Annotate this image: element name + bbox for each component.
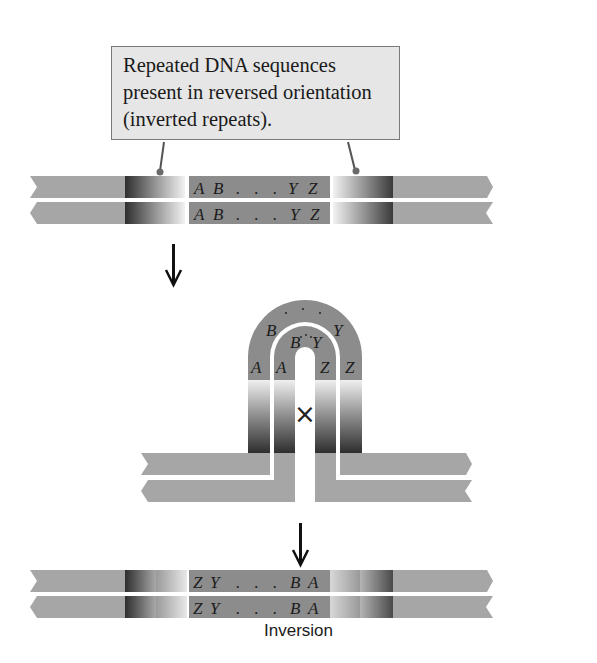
seq-after-top-B: B [290, 573, 301, 592]
hairpin-outer-Y: Y [333, 321, 344, 340]
seq-before-bottom-dots: . . . [236, 205, 282, 224]
seq-before-top-B: B [213, 179, 224, 198]
callout-pointers [157, 142, 360, 176]
dna-after: Z Y . . . B A Z Y . . . B A [30, 570, 493, 618]
hairpin-outer-B: B [266, 321, 277, 340]
seq-before-bottom-Y: Y [290, 205, 301, 224]
seq-after-top-Y: Y [210, 573, 221, 592]
seq-after-top-A: A [307, 573, 319, 592]
seq-before-top-Y: Y [288, 179, 299, 198]
hairpin-inner-Z: Z [320, 358, 330, 377]
hairpin-outer-Z: Z [345, 358, 355, 377]
dna-before: A B . . . Y Z A B . . . Y Z [30, 176, 493, 224]
hairpin-inner-B: B [290, 333, 301, 352]
callout-line-2: present in reversed orientation [123, 79, 389, 106]
callout-box: Repeated DNA sequences present in revers… [111, 46, 400, 140]
arrow-down-icon [293, 523, 308, 565]
hairpin-loop: A B Y Z A B Y Z × [141, 300, 472, 502]
seq-before-top-dots: . . . [236, 179, 282, 198]
seq-before-top-A: A [193, 179, 205, 198]
seq-after-bottom-A: A [307, 599, 319, 618]
seq-after-bottom-Z: Z [193, 599, 203, 618]
hairpin-inner-A: A [275, 358, 287, 377]
seq-after-bottom-B: B [290, 599, 301, 618]
callout-line-3: (inverted repeats). [123, 106, 389, 133]
hairpin-outer-A: A [250, 358, 262, 377]
caption-inversion: Inversion [0, 621, 597, 641]
seq-before-bottom-Z: Z [310, 205, 320, 224]
seq-before-top-Z: Z [308, 179, 318, 198]
seq-after-bottom-Y: Y [210, 599, 221, 618]
hairpin-inner-Y: Y [312, 333, 323, 352]
seq-after-bottom-dots: . . . [236, 599, 282, 618]
seq-after-top-dots: . . . [236, 573, 282, 592]
crossover-x-icon: × [294, 399, 316, 429]
callout-line-1: Repeated DNA sequences [123, 52, 389, 79]
arrow-down-icon [166, 244, 181, 285]
seq-before-bottom-A: A [193, 205, 205, 224]
seq-after-top-Z: Z [193, 573, 203, 592]
seq-before-bottom-B: B [213, 205, 224, 224]
